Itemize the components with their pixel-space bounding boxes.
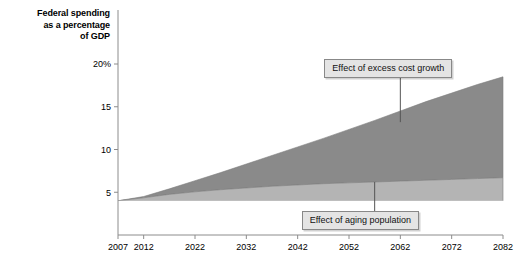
annotation-excess-cost-growth-label: Effect of excess cost growth	[332, 63, 444, 73]
x-tick-label: 2082	[493, 242, 513, 252]
x-axis-ticks: 200720122022203220422052206220722082	[108, 235, 513, 252]
x-tick-label: 2052	[339, 242, 359, 252]
y-tick-label: 15	[101, 102, 111, 112]
chart-container: Federal spending as a percentage of GDP …	[0, 0, 518, 265]
x-tick-label: 2032	[236, 242, 256, 252]
annotation-aging-population-label: Effect of aging population	[310, 215, 411, 225]
x-tick-label: 2012	[134, 242, 154, 252]
chart-plot-area: 20%15105 2007201220222032204220522062207…	[0, 0, 518, 265]
y-axis-ticks: 20%15105	[93, 59, 118, 197]
annotation-excess-cost-growth: Effect of excess cost growth	[324, 59, 452, 78]
y-tick-label: 20%	[93, 59, 111, 69]
x-tick-label: 2042	[288, 242, 308, 252]
x-tick-label: 2072	[442, 242, 462, 252]
y-tick-label: 10	[101, 145, 111, 155]
x-tick-label: 2062	[390, 242, 410, 252]
x-tick-label: 2007	[108, 242, 128, 252]
y-tick-label: 5	[106, 188, 111, 198]
annotation-aging-population: Effect of aging population	[302, 211, 419, 230]
x-tick-label: 2022	[185, 242, 205, 252]
